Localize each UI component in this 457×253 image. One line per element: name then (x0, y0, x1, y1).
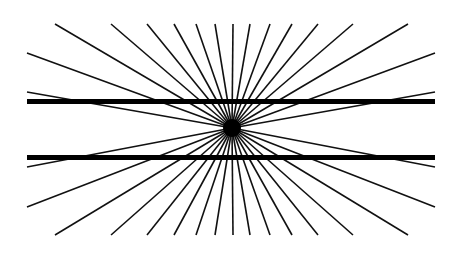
illusion-canvas (0, 0, 457, 253)
center-vanishing-point (223, 119, 241, 137)
ray-line (232, 24, 233, 128)
ray-line (232, 128, 435, 207)
ray-line (232, 128, 353, 235)
hering-illusion-figure: Hering illusion (0, 0, 457, 253)
ray-line (232, 128, 408, 235)
ray-line (232, 128, 435, 167)
ray-line (232, 128, 233, 235)
